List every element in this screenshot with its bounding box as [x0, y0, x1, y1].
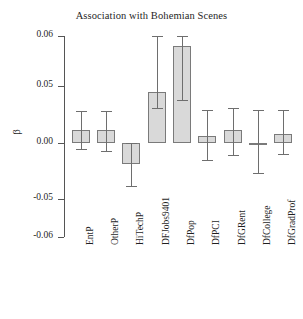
x-tick-label: DFJobs9401: [161, 197, 171, 245]
error-bar-cap-lower: [253, 173, 264, 174]
error-bar-cap-lower: [76, 149, 87, 150]
error-bar-line: [233, 108, 234, 156]
error-bar-cap-upper: [228, 108, 239, 109]
x-tick-label: OtherP: [110, 218, 120, 245]
error-bar-cap-upper: [278, 110, 289, 111]
error-bar-cap-lower: [152, 108, 163, 109]
error-bar-cap-upper: [152, 36, 163, 37]
x-tick-label: DfGRent: [237, 210, 247, 245]
y-tick-label: -0.05: [0, 192, 53, 202]
y-tick-label: 0.05: [0, 79, 53, 89]
y-axis-label: β: [10, 110, 22, 154]
error-bar-line: [283, 110, 284, 154]
x-tick-label: DfPCI: [211, 220, 221, 245]
error-bar-cap-upper: [76, 111, 87, 112]
error-bar-cap-upper: [101, 111, 112, 112]
error-bar-cap-lower: [228, 155, 239, 156]
chart-figure: Association with Bohemian Scenes β 0.060…: [0, 0, 303, 319]
error-bar-line: [81, 111, 82, 149]
error-bar-cap-lower: [101, 151, 112, 152]
error-bar-line: [131, 143, 132, 186]
error-bar-cap-upper: [126, 143, 137, 144]
error-bar-line: [182, 36, 183, 100]
error-bar-cap-lower: [202, 160, 213, 161]
y-tick-mark: [58, 237, 64, 238]
error-bar-cap-lower: [126, 186, 137, 187]
chart-title: Association with Bohemian Scenes: [0, 10, 303, 21]
error-bar-cap-upper: [177, 36, 188, 37]
x-tick-label: DfGradProf: [287, 200, 297, 245]
error-bar-cap-lower: [278, 154, 289, 155]
y-tick-label: -0.06: [0, 230, 53, 240]
x-tick-label: EntP: [85, 227, 95, 245]
error-bar-cap-lower: [177, 100, 188, 101]
x-tick-label: DfPop: [186, 220, 196, 245]
error-bar-cap-upper: [253, 110, 264, 111]
y-tick-label: 0.06: [0, 29, 53, 39]
x-tick-label: DfCollege: [262, 205, 272, 245]
y-tick-label: 0.00: [0, 136, 53, 146]
x-tick-label: HiTechP: [135, 212, 145, 245]
error-bar-line: [258, 110, 259, 173]
error-bar-line: [207, 110, 208, 160]
error-bar-line: [106, 111, 107, 151]
error-bar-line: [157, 36, 158, 108]
error-bar-cap-upper: [202, 110, 213, 111]
